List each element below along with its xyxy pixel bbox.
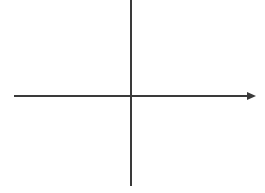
axes-svg — [0, 0, 265, 193]
x-axis-arrowhead-icon — [247, 92, 256, 100]
coordinate-axes-diagram — [0, 0, 265, 193]
